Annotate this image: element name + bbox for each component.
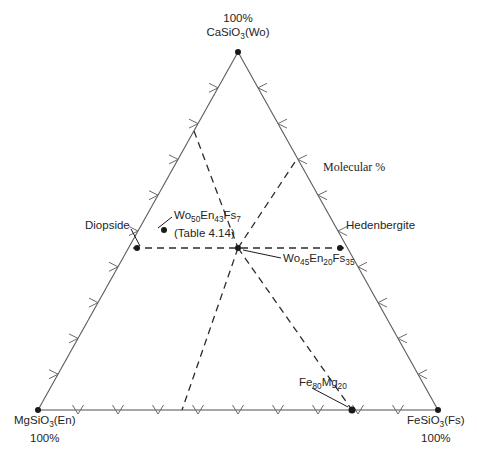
leader-center-composition <box>243 250 281 258</box>
reference-lines <box>133 131 352 410</box>
label-fe-mg-composition: Fe80Mg20 <box>299 376 347 394</box>
corner-right-value: 100% <box>407 432 465 446</box>
label-hedenbergite: Hedenbergite <box>346 219 415 231</box>
center-composition-point <box>235 245 241 251</box>
label-molecular-percent: Molecular % <box>323 160 385 175</box>
label-diopside: Diopside <box>85 219 130 231</box>
apex-formula: CaSiO3(Wo) <box>206 26 269 44</box>
table-composition-point <box>161 227 167 233</box>
label-center-composition: Wo45En20Fs35 <box>283 252 355 270</box>
diopside-point <box>134 245 140 251</box>
apex-value: 100% <box>206 12 269 26</box>
reference-line-lower-left <box>182 248 238 410</box>
reference-line-upper-right <box>238 162 295 248</box>
table-composition-formula: Wo50En43Fs7 <box>174 209 241 227</box>
fe-mg-point <box>349 407 356 414</box>
label-table-composition: Wo50En43Fs7 (Table 4.14) <box>174 209 241 240</box>
hedenbergite-point <box>337 245 343 251</box>
tick-marks-right-axis <box>258 83 427 378</box>
leader-diopside <box>131 229 140 246</box>
corner-label-en: MgSiO3(En) 100% <box>14 414 76 445</box>
corner-right-formula: FeSiO3(Fs) <box>407 414 465 432</box>
table-composition-reference: (Table 4.14) <box>174 227 241 241</box>
apex-point <box>235 49 241 55</box>
corner-left-point <box>35 407 41 413</box>
leader-table-composition <box>158 217 172 228</box>
corner-label-fs: FeSiO3(Fs) 100% <box>407 414 465 445</box>
corner-left-formula: MgSiO3(En) <box>14 414 76 432</box>
apex-label-wo: 100% CaSiO3(Wo) <box>206 12 269 43</box>
corner-left-value: 100% <box>14 432 76 446</box>
corner-right-point <box>435 407 441 413</box>
